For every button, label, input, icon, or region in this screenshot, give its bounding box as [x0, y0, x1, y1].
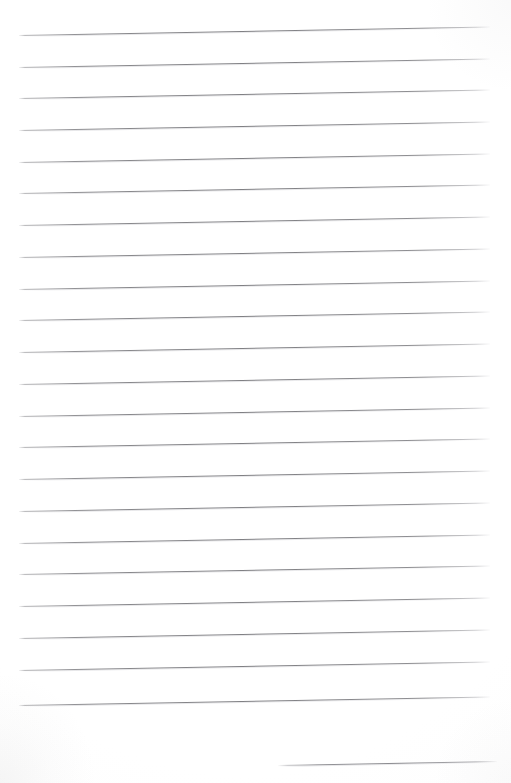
rule-line — [19, 697, 490, 706]
rule-line — [19, 344, 490, 353]
ruled-lines-layer — [0, 0, 511, 783]
rule-line — [19, 439, 490, 448]
rule-line-partial — [278, 761, 497, 766]
rule-line — [19, 566, 490, 575]
rule-line — [19, 122, 490, 131]
scanned-page — [0, 0, 511, 783]
rule-line — [19, 27, 490, 36]
rule-line — [19, 598, 490, 607]
rule-line — [19, 154, 490, 163]
rule-line — [19, 185, 490, 194]
rule-line — [19, 249, 490, 258]
rule-line — [19, 535, 490, 544]
rule-line — [19, 312, 490, 321]
rule-line — [19, 503, 490, 512]
rule-line — [19, 281, 490, 290]
rule-line — [19, 630, 490, 639]
rule-line — [19, 217, 490, 226]
rule-line — [19, 59, 490, 68]
rule-line — [19, 90, 490, 99]
rule-line — [19, 471, 490, 480]
rule-line — [19, 376, 490, 385]
rule-line — [19, 662, 490, 671]
rule-line — [19, 408, 490, 417]
